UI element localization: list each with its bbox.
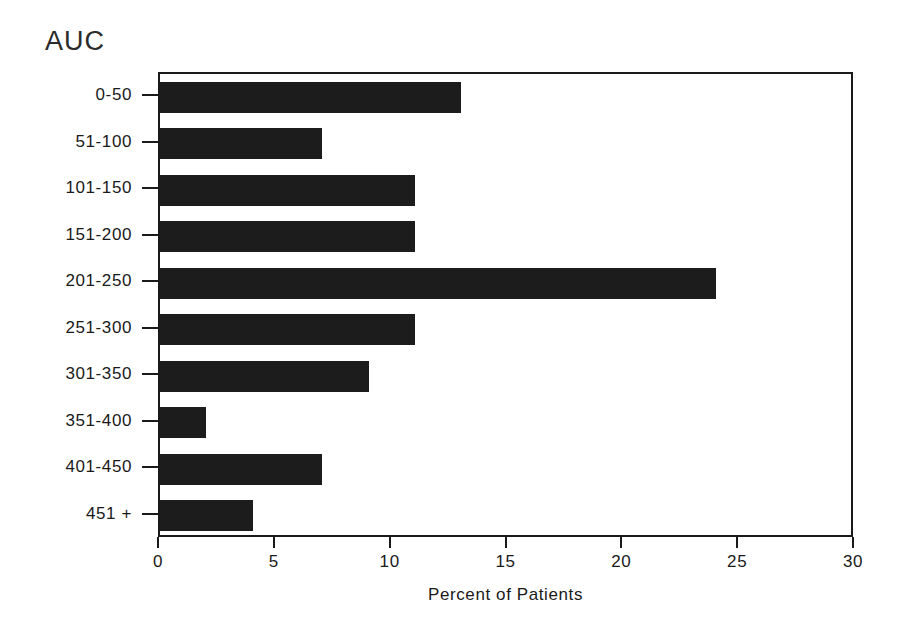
y-tick-mark (142, 234, 158, 236)
bar-row (160, 82, 851, 113)
bar-row (160, 361, 851, 392)
y-tick-mark (142, 187, 158, 189)
x-tick-label: 0 (153, 552, 163, 572)
x-tick-label: 25 (727, 552, 747, 572)
y-tick-mark (142, 420, 158, 422)
x-tick-label: 20 (611, 552, 631, 572)
y-tick-label: 201-250 (65, 271, 132, 291)
y-tick-label: 151-200 (65, 225, 132, 245)
bar-row (160, 454, 851, 485)
bar-201_250 (160, 268, 716, 299)
bar-351_400 (160, 407, 206, 438)
x-tick-label: 10 (380, 552, 400, 572)
bar-row (160, 128, 851, 159)
y-tick-label: 351-400 (65, 411, 132, 431)
bar-row (160, 268, 851, 299)
y-tick-label: 0-50 (96, 85, 132, 105)
bar-0_50 (160, 82, 461, 113)
y-tick-mark (142, 466, 158, 468)
bar-101_150 (160, 175, 415, 206)
bar-row (160, 221, 851, 252)
bars-layer (160, 74, 851, 535)
y-tick-label: 51-100 (75, 132, 132, 152)
x-tick-mark (505, 537, 507, 548)
bar-row (160, 175, 851, 206)
y-tick-mark (142, 513, 158, 515)
y-tick-mark (142, 327, 158, 329)
x-tick-mark (620, 537, 622, 548)
bar-51_100 (160, 128, 322, 159)
plot-area (158, 72, 853, 537)
y-tick-mark (142, 94, 158, 96)
x-tick-mark (157, 537, 159, 548)
bar-451 (160, 500, 253, 531)
x-tick-mark (852, 537, 854, 548)
y-tick-label: 101-150 (65, 178, 132, 198)
y-tick-mark (142, 280, 158, 282)
bar-row (160, 314, 851, 345)
y-tick-label: 451 + (86, 504, 132, 524)
x-axis: Percent of Patients 051015202530 (158, 537, 853, 607)
x-axis-title: Percent of Patients (158, 585, 853, 605)
y-tick-label: 301-350 (65, 364, 132, 384)
bar-row (160, 407, 851, 438)
y-tick-mark (142, 141, 158, 143)
x-tick-mark (736, 537, 738, 548)
bar-401_450 (160, 454, 322, 485)
x-tick-label: 30 (843, 552, 863, 572)
x-tick-label: 5 (269, 552, 279, 572)
chart-title: AUC (45, 26, 105, 57)
bar-151_200 (160, 221, 415, 252)
y-tick-label: 401-450 (65, 457, 132, 477)
y-axis: 0-5051-100101-150151-200201-250251-30030… (0, 72, 158, 537)
bar-301_350 (160, 361, 369, 392)
bar-row (160, 500, 851, 531)
y-tick-mark (142, 373, 158, 375)
x-tick-mark (389, 537, 391, 548)
bar-251_300 (160, 314, 415, 345)
bar-chart-figure: AUC 0-5051-100101-150151-200201-250251-3… (0, 0, 906, 627)
x-tick-mark (273, 537, 275, 548)
x-tick-label: 15 (495, 552, 515, 572)
y-tick-label: 251-300 (65, 318, 132, 338)
